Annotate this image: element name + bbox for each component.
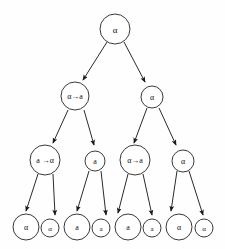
- tree-node[interactable]: a: [64, 214, 90, 240]
- tree-edge: [53, 110, 68, 143]
- tree-node[interactable]: a: [115, 214, 141, 240]
- tree-edge: [118, 174, 128, 213]
- tree-node[interactable]: a: [92, 219, 110, 237]
- tree-edge: [26, 174, 38, 211]
- node-label: a: [75, 223, 79, 232]
- node-label: α: [113, 25, 118, 35]
- tree-node[interactable]: α: [195, 219, 213, 237]
- tree-node[interactable]: α: [141, 86, 163, 108]
- tree-edge: [77, 171, 89, 211]
- tree-node[interactable]: a: [85, 151, 105, 171]
- tree-canvas: αα→aαa →αaα→aαααaaaaαα: [0, 0, 225, 249]
- tree-edge: [101, 171, 106, 215]
- node-label: α: [48, 225, 52, 233]
- tree-node[interactable]: a →α: [30, 145, 60, 175]
- tree-node[interactable]: α: [100, 14, 130, 44]
- node-label: a: [93, 157, 97, 166]
- tree-node[interactable]: α: [166, 214, 192, 240]
- tree-node[interactable]: α→a: [61, 82, 89, 110]
- tree-edge: [171, 171, 177, 211]
- node-label: α→a: [67, 92, 83, 101]
- tree-edge: [189, 171, 203, 215]
- tree-node[interactable]: α: [13, 214, 39, 240]
- tree-edge: [84, 110, 94, 145]
- tree-edge: [124, 42, 145, 82]
- node-label: a →α: [36, 156, 55, 165]
- tree-edge: [53, 174, 55, 215]
- tree-node[interactable]: α: [172, 150, 194, 172]
- derivation-tree-diagram: αα→aαa →αaα→aαααaaaaαα: [0, 0, 225, 249]
- node-label: α: [202, 225, 206, 233]
- tree-edge: [134, 108, 147, 143]
- tree-edge: [159, 108, 176, 145]
- node-label: α→a: [127, 156, 143, 165]
- node-label: a: [126, 223, 130, 232]
- edges-layer: [26, 42, 203, 215]
- nodes-layer: αα→aαa →αaα→aαααaaaaαα: [13, 14, 213, 240]
- tree-edge: [143, 174, 152, 215]
- tree-node[interactable]: α→a: [120, 145, 150, 175]
- tree-node[interactable]: a: [143, 219, 161, 237]
- tree-edge: [83, 42, 107, 80]
- tree-node[interactable]: α: [41, 219, 59, 237]
